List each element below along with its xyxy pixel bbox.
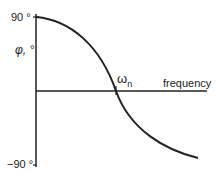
y-top-label: 90 °: [11, 12, 31, 23]
omega-symbol: ω: [117, 71, 127, 86]
y-axis-label: φ, °: [15, 44, 34, 56]
y-bottom-label: −90 °: [7, 159, 33, 170]
plot-canvas: [0, 0, 216, 178]
omega-subscript: n: [127, 79, 132, 89]
phase-plot: 90 ° φ, ° −90 ° ωn frequency: [0, 0, 216, 178]
x-axis-label: frequency: [163, 78, 211, 89]
omega-n-label: ωn: [117, 72, 132, 89]
